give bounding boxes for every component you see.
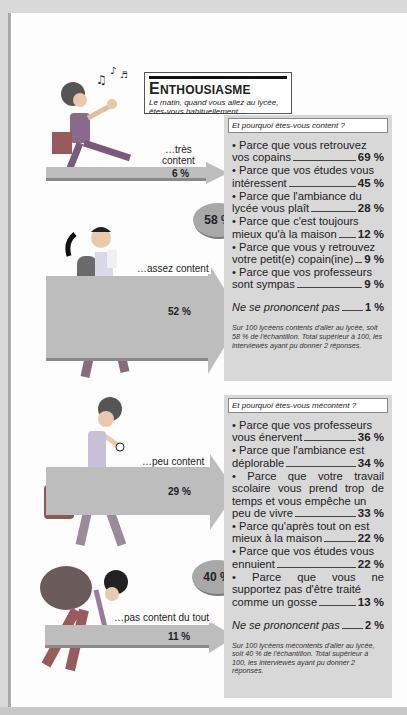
svg-text:♬: ♬ xyxy=(120,70,128,80)
label-assez-content: …assez content xyxy=(135,263,211,274)
mecontent-reason: • Parce que vos professeurs vous énerven… xyxy=(232,419,384,444)
mecontent-reason: • Parce que votre travail scolaire vous … xyxy=(232,470,384,520)
page-subtitle: Le matin, quand vous allez au lycée, ête… xyxy=(149,98,287,116)
content-reasons-panel: Et pourquoi êtes-vous content ? • Parce … xyxy=(224,115,392,381)
content-reason: • Parce que vos études vous intéressent4… xyxy=(232,164,384,189)
mecontent-reason: • Parce que vous ne supportez pas d'être… xyxy=(232,571,384,609)
pct-tres-content: 6 % xyxy=(172,168,189,179)
content-reason: • Parce que vous y retrouvez votre petit… xyxy=(232,241,384,266)
content-footnote: Sur 100 lycéens contents d'aller au lycé… xyxy=(232,324,384,350)
arrow-assez-content xyxy=(46,262,242,374)
content-question: Et pourquoi êtes-vous content ? xyxy=(228,118,388,133)
pct-assez-content: 52 % xyxy=(168,306,191,317)
music-note-icon: ♪ xyxy=(110,65,116,76)
content-reason: • Parce que vos professeurs sont sympas9… xyxy=(232,266,384,291)
happy-student-illustration: ♫ ♪ ♬ xyxy=(40,58,150,168)
label-tres-content: …très content xyxy=(160,144,197,166)
mecontent-reason: • Parce qu'après tout on est mieux à la … xyxy=(232,520,384,545)
content-reason: • Parce que c'est toujours mieux qu'à la… xyxy=(232,215,384,240)
mecontent-question: Et pourquoi êtes-vous mécontent ? xyxy=(228,398,388,413)
page-title: ENTHOUSIASME xyxy=(149,80,287,98)
page-bottom-edge xyxy=(0,707,407,715)
title-rule xyxy=(149,76,287,79)
pct-peu-content: 29 % xyxy=(168,486,191,497)
content-no-response: Ne se prononcent pas1 % xyxy=(232,301,384,314)
content-reason: • Parce que vous retrouvez vos copains69… xyxy=(232,139,384,164)
arrow-pas-content xyxy=(45,621,235,653)
title-box: ENTHOUSIASME Le matin, quand vous allez … xyxy=(144,72,292,114)
mecontent-reason: • Parce que l'ambiance est déplorable34 … xyxy=(232,444,384,469)
mecontent-footnote: Sur 100 lycéens mécontents d'aller au ly… xyxy=(232,642,384,676)
pct-pas-content: 11 % xyxy=(168,631,190,642)
music-note-icon: ♫ xyxy=(96,73,107,87)
label-pas-content: …pas content du tout xyxy=(112,612,211,623)
mecontent-no-response: Ne se prononcent pas2 % xyxy=(232,619,384,632)
mecontent-reason: • Parce que vos études vous ennuient22 % xyxy=(232,545,384,570)
content-reason: • Parce que l'ambiance du lycée vous pla… xyxy=(232,190,384,215)
mecontent-reasons-panel: Et pourquoi êtes-vous mécontent ? • Parc… xyxy=(224,395,392,698)
arrow-tres-content xyxy=(46,162,226,184)
label-peu-content: …peu content xyxy=(140,456,206,467)
